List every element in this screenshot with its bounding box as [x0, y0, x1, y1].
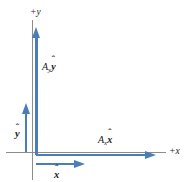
x-axis-label-text: +x [169, 146, 180, 156]
ay-hat-glyph: ˆ [51, 56, 55, 66]
ax-component-label: Axˆx [98, 135, 112, 147]
ay-component-label: Ayˆy [42, 62, 56, 74]
ax-label-unit-vector: ˆx [107, 135, 112, 145]
y-axis-label-text: +y [30, 7, 41, 17]
x-hat-label: ˆx [54, 170, 59, 181]
ay-component-vector-arrowhead [32, 27, 40, 38]
vector-components-figure: +y +x Ayˆy Axˆx ˆy ˆx [0, 0, 186, 182]
ax-component-vector-arrowhead [145, 151, 156, 159]
y-hat-unit-vector-arrowhead [22, 103, 30, 114]
y-axis-label: +y [30, 8, 41, 18]
y-hat-unit-vector-shaft [25, 112, 27, 152]
ax-hat-glyph: ˆ [107, 129, 112, 139]
y-hat-symbol-group: ˆy [15, 129, 20, 140]
x-hat-glyph: ˆ [54, 164, 59, 174]
ay-component-vector-shaft [35, 36, 38, 155]
ay-label-unit-vector: ˆy [51, 62, 55, 72]
x-hat-unit-vector-arrowhead [74, 160, 85, 168]
y-hat-label: ˆy [15, 129, 20, 140]
x-hat-symbol-group: ˆx [54, 170, 59, 181]
ax-component-vector-shaft [36, 154, 147, 157]
y-hat-glyph: ˆ [15, 123, 20, 133]
x-axis-label: +x [169, 147, 180, 157]
y-axis-line [32, 20, 33, 180]
